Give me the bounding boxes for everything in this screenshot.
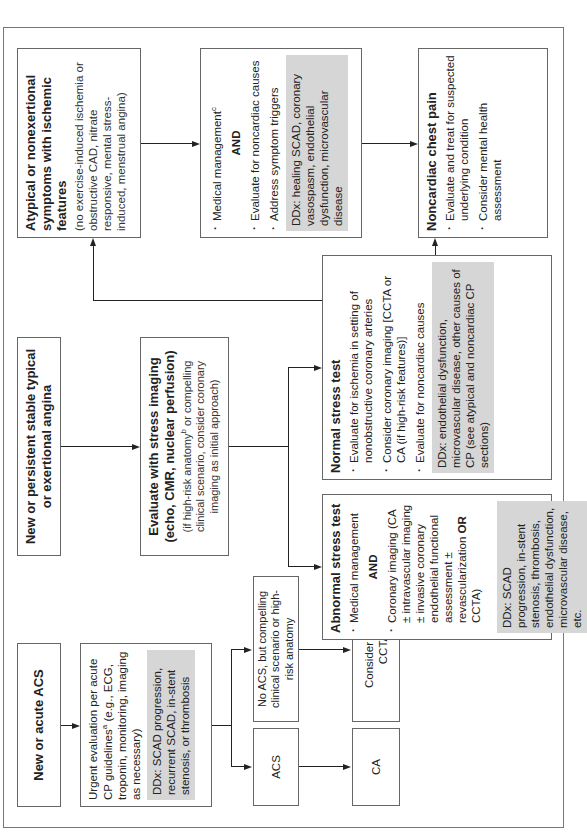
normal-list: Evaluate for ischemia in setting of nono…	[347, 262, 427, 473]
medical-management-box: Medical managementc AND Evaluate for non…	[200, 48, 362, 238]
connector	[212, 725, 232, 726]
arrow-head	[90, 238, 96, 246]
management-item: Medical managementc	[209, 55, 224, 231]
noncardiac-list: Evaluate and treat for suspected underly…	[443, 55, 504, 231]
connector	[435, 245, 436, 255]
atypical-box: Atypical or nonexertional symptoms with …	[17, 48, 141, 238]
acs-box: ACS	[253, 728, 299, 806]
no-acs-box: No ACS, but compelling clinical scenario…	[253, 576, 299, 722]
ca-box: CA	[352, 728, 400, 806]
management-list: Medical managementc	[209, 55, 224, 231]
noncardiac-item: Consider mental health assessment	[476, 55, 504, 231]
stress-imaging-title: Evaluate with stress imaging (echo, CMR,…	[146, 344, 177, 549]
atypical-title: Atypical or nonexertional symptoms with …	[23, 55, 70, 231]
abnormal-stress-box: Abnormal stress test Medical management …	[322, 494, 552, 640]
normal-title: Normal stress test	[328, 262, 344, 473]
arrow-head	[132, 444, 140, 450]
arrow-head	[244, 647, 252, 653]
connector	[288, 367, 289, 567]
acs-label: ACS	[269, 755, 283, 779]
new-persistent-stable-box: New or persistent stable typical or exer…	[17, 337, 61, 556]
abnormal-item: Coronary imaging (CA ± intravascular ima…	[385, 501, 483, 633]
management-item: Address symptom triggers	[267, 55, 281, 231]
arrow-head	[314, 564, 322, 570]
stable-angina-label: New or persistent stable typical or exer…	[23, 344, 54, 549]
normal-item: Evaluate for ischemia in setting of nono…	[347, 262, 375, 473]
abnormal-title: Abnormal stress test	[328, 501, 344, 633]
connector	[362, 143, 411, 144]
normal-stress-box: Normal stress test Evaluate for ischemia…	[322, 255, 552, 480]
connector	[231, 766, 245, 767]
connector	[231, 650, 232, 767]
management-list-2: Evaluate for noncardiac causes Address s…	[248, 55, 281, 231]
connector	[299, 649, 344, 650]
normal-ddx: DDx: endothelial dysfunction, microvascu…	[432, 262, 494, 473]
abnormal-item: Medical management	[347, 501, 361, 633]
atypical-sub: (no exercise-induced ischemia or obstruc…	[72, 55, 128, 231]
arrow-head	[244, 764, 252, 770]
noncardiac-item: Evaluate and treat for suspected underly…	[443, 55, 471, 231]
stress-imaging-sub: (if high-risk anatomyb or compelling cli…	[179, 344, 221, 549]
abnormal-ddx: DDx: SCAD progression, in-stent stenosis…	[497, 501, 587, 633]
connector	[61, 446, 133, 447]
connector	[288, 367, 315, 368]
normal-item: Evaluate for noncardiac causes	[413, 262, 427, 473]
connector	[141, 143, 193, 144]
arrow-head	[432, 238, 438, 246]
new-acute-acs-label: New or acute ACS	[31, 669, 47, 781]
no-acs-label: No ACS, but compelling clinical scenario…	[256, 583, 296, 715]
connector	[231, 649, 245, 650]
urgent-ddx: DDx: SCAD progression, recurrent SCAD, i…	[147, 650, 195, 800]
management-ddx: DDx: healing SCAD, coronary vasospasm, e…	[286, 55, 348, 231]
noncardiac-box: Noncardiac chest pain Evaluate and treat…	[418, 48, 548, 238]
arrow-head	[72, 723, 80, 729]
noncardiac-title: Noncardiac chest pain	[424, 55, 440, 231]
urgent-evaluation-text: Urgent evaluation per acute CP guideline…	[86, 650, 143, 800]
connector	[93, 245, 94, 301]
management-item: Evaluate for noncardiac causes	[248, 55, 262, 231]
connector	[229, 446, 289, 447]
new-acute-acs-box: New or acute ACS	[17, 643, 61, 807]
arrow-head	[343, 647, 351, 653]
and-label: AND	[366, 501, 380, 633]
abnormal-list: Medical management	[347, 501, 361, 633]
normal-item: Consider coronary imaging [CCTA or CA (i…	[380, 262, 408, 473]
arrow-head	[192, 141, 200, 147]
and-label: AND	[229, 55, 243, 231]
connector	[299, 766, 344, 767]
ca-label: CA	[369, 759, 383, 775]
arrow-head	[314, 365, 322, 371]
stress-imaging-box: Evaluate with stress imaging (echo, CMR,…	[140, 337, 229, 556]
arrow-head	[410, 141, 418, 147]
connector	[93, 300, 322, 301]
arrow-head	[343, 764, 351, 770]
connector	[288, 566, 315, 567]
abnormal-list-2: Coronary imaging (CA ± intravascular ima…	[385, 501, 483, 633]
urgent-evaluation-box: Urgent evaluation per acute CP guideline…	[80, 643, 212, 807]
